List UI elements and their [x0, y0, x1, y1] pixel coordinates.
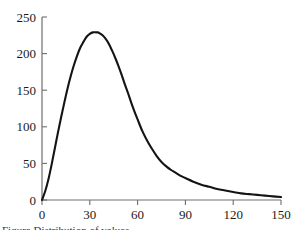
x-tick-label: 150: [271, 207, 291, 222]
y-tick-label: 50: [23, 156, 36, 171]
x-tick-label: 30: [83, 207, 96, 222]
x-tick-label: 60: [131, 207, 144, 222]
x-tick-label: 90: [179, 207, 192, 222]
figure-caption: Figure Distribution of values: [2, 225, 293, 230]
figure-container: 050100150200250 0306090120150 Figure Dis…: [0, 0, 295, 230]
x-tick-label: 0: [39, 207, 46, 222]
y-tick-label: 200: [17, 46, 37, 61]
x-tick-label: 120: [223, 207, 243, 222]
chart-plot: 050100150200250 0306090120150: [0, 0, 295, 230]
y-tick-label: 0: [30, 193, 37, 208]
y-tick-label: 250: [17, 10, 37, 25]
y-tick-label: 100: [17, 119, 37, 134]
y-tick-label: 150: [17, 83, 37, 98]
